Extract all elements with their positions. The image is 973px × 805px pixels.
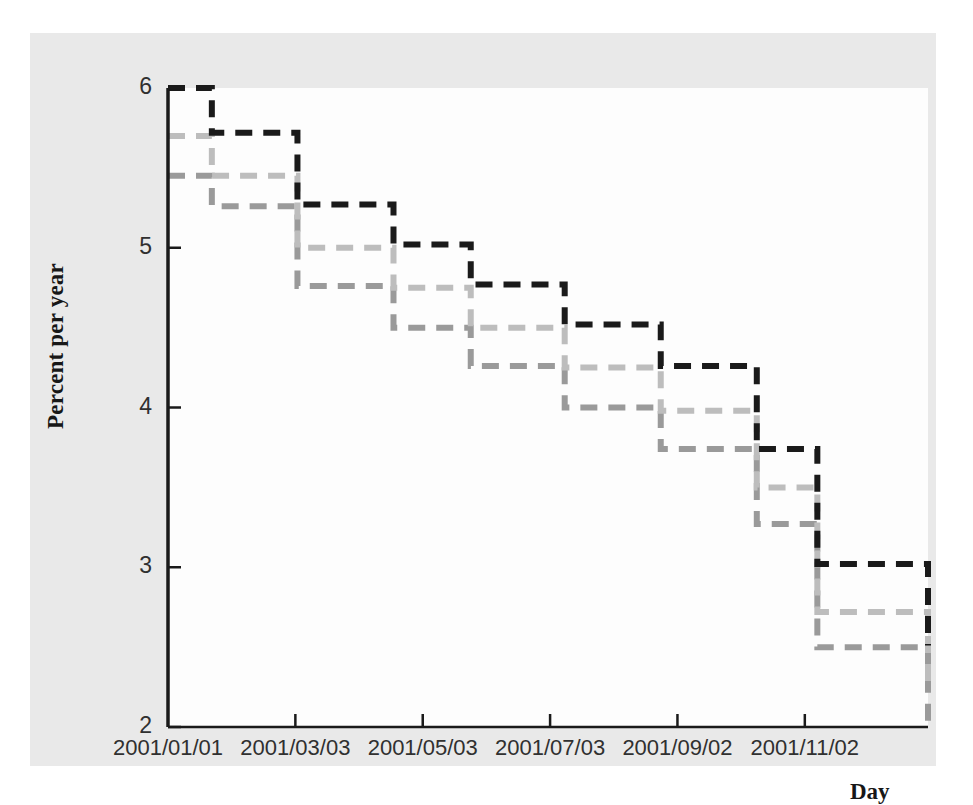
series-2 (168, 176, 928, 726)
x-axis-title: Day (850, 779, 890, 805)
chart-svg (30, 33, 936, 766)
axes (168, 88, 928, 727)
series-line-series-light-gray (168, 136, 928, 692)
series-1 (168, 136, 928, 692)
series-line-series-mid-gray (168, 176, 928, 726)
figure-container: Percent per year 23456 2001/01/012001/03… (30, 33, 936, 766)
tick-marks (168, 88, 805, 727)
